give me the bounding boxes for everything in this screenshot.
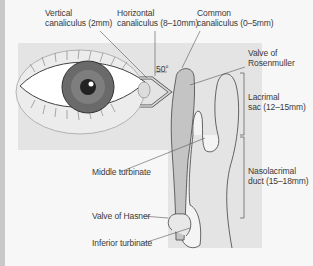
label-lacrimal-sac: Lacrimal sac (12–15mm)	[248, 92, 306, 112]
pupil	[80, 79, 96, 95]
label-common-canaliculus: Common canaliculus (0–5mm)	[197, 8, 274, 28]
caruncle	[138, 82, 150, 98]
label-nasolacrimal-duct: Nasolacrimal duct (15–18mm)	[248, 166, 309, 186]
label-middle-turbinate: Middle turbinate	[92, 167, 151, 177]
lacrimal-drainage-diagram	[0, 0, 313, 266]
label-angle: 50°	[156, 64, 169, 74]
label-valve-of-rosenmuller: Valve of Rosenmuller	[248, 48, 295, 68]
label-vertical-canaliculus: Vertical canaliculus (2mm)	[45, 8, 112, 28]
label-horizontal-canaliculus: Horizontal canaliculus (8–10mm)	[117, 8, 198, 28]
label-valve-of-hasner: Valve of Hasner	[92, 211, 150, 221]
label-inferior-turbinate: Inferior turbinate	[92, 238, 152, 248]
